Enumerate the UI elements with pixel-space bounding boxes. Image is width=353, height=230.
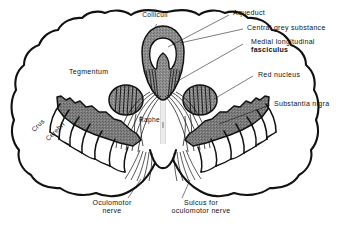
label-oculomotor-nerve-line2: nerve — [73, 207, 151, 215]
label-central-grey-substance: Central grey substance — [247, 24, 326, 32]
label-mlf-line1: Medial longitudinal — [251, 38, 315, 46]
label-sulcus-line2: oculomotor nerve — [146, 207, 256, 215]
label-colliculi-text: Colliculi — [142, 11, 167, 18]
leader-sulcus — [182, 180, 190, 198]
red-nucleus-right — [183, 84, 217, 116]
midbrain-section-figure: Colliculi Aqueduct Central grey substanc… — [0, 0, 353, 230]
red-nucleus-left — [109, 84, 143, 116]
label-tegmentum-text: Tegmentum — [69, 68, 108, 75]
label-aqueduct: Aqueduct — [233, 9, 265, 17]
label-mlf-line2: fasciculus — [251, 46, 315, 54]
label-substantia-nigra-text: Substantia nigra — [274, 100, 329, 107]
label-tegmentum: Tegmentum — [69, 68, 108, 76]
label-medial-longitudinal-fasciculus: Medial longitudinal fasciculus — [251, 38, 315, 55]
red-nucleus-left-body — [109, 85, 143, 115]
label-raphe: Raphe — [139, 116, 160, 123]
label-sulcus-for-oculomotor-nerve: Sulcus for oculomotor nerve — [146, 199, 256, 216]
label-oculomotor-nerve: Oculomotor nerve — [73, 199, 151, 216]
label-red-nucleus: Red nucleus — [258, 71, 300, 79]
label-central-grey-substance-text: Central grey substance — [247, 24, 326, 31]
label-red-nucleus-text: Red nucleus — [258, 71, 300, 78]
midbrain-diagram-svg — [0, 0, 353, 230]
label-sulcus-line1: Sulcus for — [146, 199, 256, 207]
label-colliculi: Colliculi — [125, 11, 185, 18]
label-substantia-nigra: Substantia nigra — [274, 100, 329, 108]
label-oculomotor-nerve-line1: Oculomotor — [73, 199, 151, 207]
label-aqueduct-text: Aqueduct — [233, 9, 265, 16]
label-raphe-text: Raphe — [139, 116, 160, 123]
red-nucleus-right-body — [183, 85, 217, 115]
